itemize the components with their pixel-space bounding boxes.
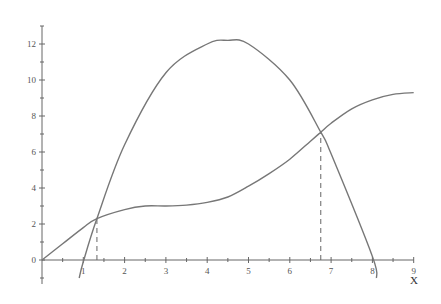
chart-canvas: 123456789024681012 X (0, 0, 441, 304)
y-tick-label: 6 (32, 147, 37, 157)
x-axis-title: X (410, 274, 418, 286)
curves (42, 40, 414, 278)
x-tick-label: 3 (164, 266, 169, 276)
y-tick-label: 8 (32, 111, 37, 121)
x-tick-label: 6 (288, 266, 293, 276)
x-tick-label: 8 (370, 266, 375, 276)
intersection-markers (97, 132, 321, 260)
y-tick-label: 12 (27, 39, 36, 49)
y-tick-label: 0 (32, 255, 37, 265)
x-tick-label: 2 (122, 266, 127, 276)
parabola-curve (79, 40, 377, 278)
x-tick-label: 4 (205, 266, 210, 276)
x-tick-label: 5 (246, 266, 251, 276)
y-tick-label: 10 (27, 75, 37, 85)
cubic-curve (42, 93, 414, 260)
axes (39, 26, 414, 284)
y-tick-label: 2 (32, 219, 37, 229)
x-tick-label: 1 (81, 266, 86, 276)
y-tick-label: 4 (32, 183, 37, 193)
tick-labels: 123456789024681012 (27, 39, 416, 276)
x-tick-label: 7 (329, 266, 334, 276)
